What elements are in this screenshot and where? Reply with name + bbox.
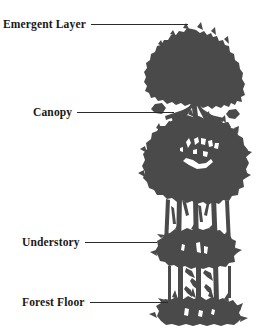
label-canopy-text: Canopy [33, 105, 72, 119]
label-understory: Understory [22, 235, 157, 249]
forest-silhouette-illustration [0, 0, 262, 332]
label-forest-floor-text: Forest Floor [22, 295, 85, 309]
label-understory-text: Understory [22, 235, 80, 249]
leader-line-understory [85, 242, 157, 243]
leader-line-canopy [77, 112, 174, 113]
label-canopy: Canopy [33, 105, 174, 119]
rainforest-layers-diagram: Emergent Layer Canopy Understory Forest … [0, 0, 262, 332]
leader-line-emergent-layer [91, 24, 188, 25]
label-emergent-layer: Emergent Layer [3, 17, 188, 31]
understory-crown-shape [155, 228, 238, 269]
label-forest-floor: Forest Floor [22, 295, 168, 309]
emergent-crown-shape [144, 28, 245, 109]
tree-silhouette-group [138, 22, 252, 326]
leader-line-forest-floor [90, 302, 168, 303]
label-emergent-layer-text: Emergent Layer [3, 17, 86, 31]
